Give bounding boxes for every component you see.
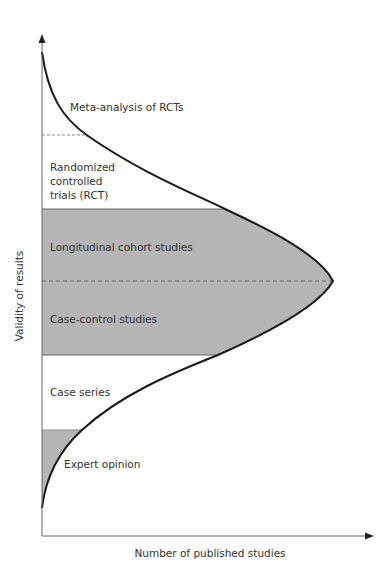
cohort-casecontrol-band: [42, 209, 342, 355]
x-axis-label: Number of published studies: [134, 547, 285, 559]
label-rct-line3: trials (RCT): [50, 189, 108, 201]
label-rct-line1: Randomized: [50, 161, 115, 173]
evidence-pyramid-chart: Meta-analysis of RCTs Randomized control…: [0, 0, 391, 578]
label-rct-line2: controlled: [50, 175, 102, 187]
label-cohort: Longitudinal cohort studies: [50, 241, 193, 253]
expert-opinion-band: [42, 430, 342, 510]
y-axis-arrow-icon: [39, 34, 46, 43]
x-axis-arrow-icon: [365, 533, 374, 540]
label-case-control: Case-control studies: [50, 313, 157, 325]
y-axis-label: Validity of results: [13, 251, 25, 342]
label-case-series: Case series: [50, 386, 110, 398]
label-meta-analysis: Meta-analysis of RCTs: [70, 101, 183, 113]
label-expert-opinion: Expert opinion: [64, 458, 140, 470]
